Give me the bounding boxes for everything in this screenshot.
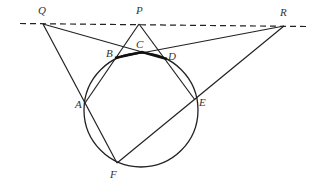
- diagram-svg: Q P R B C D A E F: [0, 0, 322, 187]
- line-QF: [43, 24, 117, 163]
- label-A: A: [74, 98, 82, 110]
- label-B: B: [106, 47, 113, 59]
- label-C: C: [136, 38, 144, 50]
- label-E: E: [198, 96, 206, 108]
- dashed-line-QPR: [20, 24, 306, 27]
- label-D: D: [167, 50, 176, 62]
- line-PE: [139, 24, 195, 100]
- label-F: F: [109, 168, 117, 180]
- thick-path-BCD: [115, 52, 167, 59]
- label-Q: Q: [38, 4, 46, 16]
- line-PA: [85, 24, 139, 103]
- geometry-diagram: Q P R B C D A E F: [0, 0, 322, 187]
- label-R: R: [279, 6, 287, 18]
- label-P: P: [135, 4, 143, 16]
